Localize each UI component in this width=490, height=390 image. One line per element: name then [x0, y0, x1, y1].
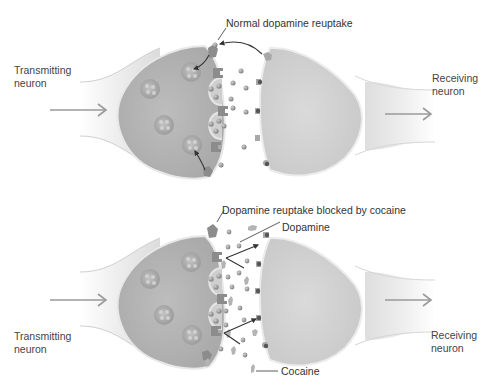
- normal-reuptake-label: Normal dopamine reuptake: [226, 17, 353, 30]
- label-line: Transmitting: [14, 64, 71, 77]
- label-line: neuron: [14, 343, 71, 356]
- cocaine-block-label: Dopamine reuptake blocked by cocaine: [222, 204, 406, 217]
- cocaine-legend-glyph: [251, 364, 255, 373]
- reuptake-arc-arrow: [220, 42, 262, 54]
- receiving-neuron-label-bottom: Receiving neuron: [431, 329, 477, 354]
- diagram-canvas: [0, 0, 490, 390]
- label-line: Receiving: [432, 72, 478, 85]
- panel-cocaine-block: [50, 210, 435, 373]
- receiving-neuron-label-top: Receiving neuron: [432, 72, 478, 97]
- synapse-diagram: Normal dopamine reuptake Transmitting ne…: [0, 0, 490, 390]
- dopamine-to-receptor-arrows: [224, 245, 258, 344]
- label-line: neuron: [431, 342, 477, 355]
- label-line: Receiving: [431, 329, 477, 342]
- dopamine-label: Dopamine: [282, 221, 330, 234]
- transmitting-neuron-label-top: Transmitting neuron: [14, 64, 71, 89]
- label-line: neuron: [432, 85, 478, 98]
- label-line: neuron: [14, 77, 71, 90]
- transmitting-neuron-label-bottom: Transmitting neuron: [14, 330, 71, 355]
- normal-reuptake-leader: [218, 28, 226, 40]
- label-line: Transmitting: [14, 330, 71, 343]
- panel-normal-reuptake: [50, 28, 435, 179]
- cocaine-label: Cocaine: [281, 365, 320, 378]
